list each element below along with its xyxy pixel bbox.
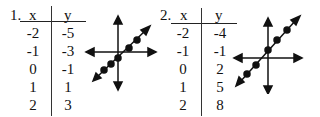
table-cell-x: 2 [168, 97, 198, 114]
line-graph-icon [232, 14, 306, 94]
table-cell-x: -2 [168, 25, 198, 42]
x-header: x [180, 7, 188, 24]
problem-2: 2. x y -2 -4 -1 -1 0 2 1 5 2 8 [160, 0, 320, 117]
table-cell-x: -1 [18, 43, 48, 60]
table-column-divider [201, 8, 202, 116]
table-cell-x: 2 [18, 97, 48, 114]
table-cell-x: -2 [18, 25, 48, 42]
table-cell-y: -4 [205, 25, 235, 42]
problem-number: 2. [160, 7, 171, 24]
y-header: y [215, 7, 223, 24]
table-cell-x: -1 [168, 43, 198, 60]
table-cell-y: 3 [53, 97, 83, 114]
table-cell-y: 8 [205, 97, 235, 114]
table-cell-x: 1 [18, 79, 48, 96]
table-column-divider [51, 6, 52, 116]
table-header-rule [20, 21, 86, 22]
table-cell-x: 0 [18, 61, 48, 78]
table-cell-y: 1 [53, 79, 83, 96]
table-cell-y: -1 [205, 43, 235, 60]
table-cell-y: -5 [53, 25, 83, 42]
table-header-rule [171, 23, 237, 24]
table-cell-y: 2 [205, 61, 235, 78]
table-cell-x: 1 [168, 79, 198, 96]
table-cell-y: -3 [53, 43, 83, 60]
line-graph-icon [84, 14, 158, 92]
problem-1: 1. x y -2 -5 -1 -3 0 -1 1 1 2 3 [0, 0, 160, 117]
table-cell-y: 5 [205, 79, 235, 96]
table-cell-x: 0 [168, 61, 198, 78]
table-cell-y: -1 [53, 61, 83, 78]
